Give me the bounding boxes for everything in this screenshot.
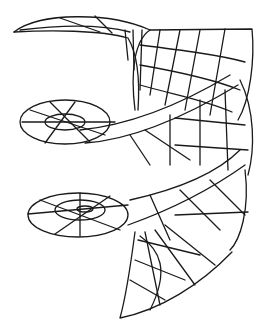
helicoid-wireframe-figure <box>0 0 263 331</box>
helicoid-drawing <box>0 0 263 331</box>
bottom-turn <box>120 225 232 318</box>
top-turn <box>14 16 253 120</box>
lower-turn <box>28 150 248 250</box>
middle-turn <box>20 75 253 175</box>
